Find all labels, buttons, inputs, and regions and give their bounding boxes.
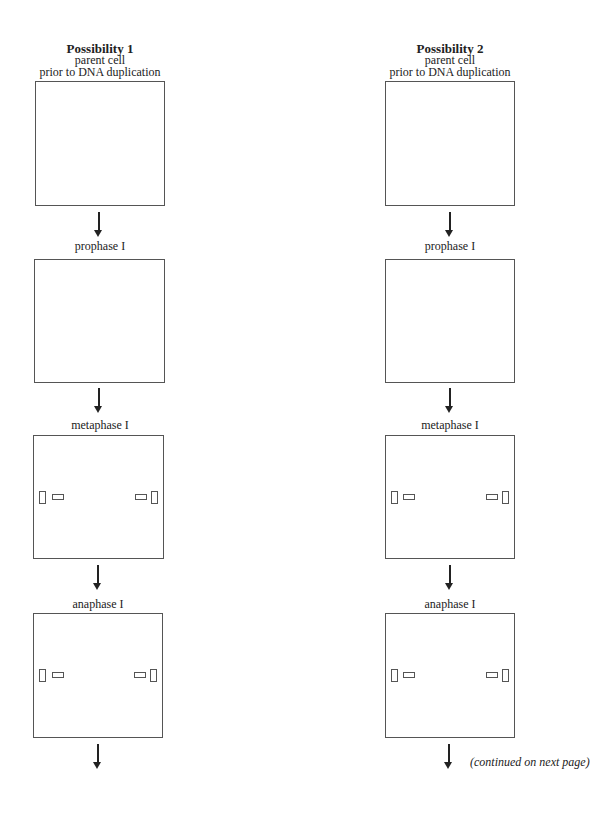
chromosome-horizontal — [486, 672, 498, 678]
chromosome-vertical — [391, 491, 398, 504]
down-arrow-icon — [444, 388, 456, 413]
possibility-2-prophase-label: prophase I — [370, 239, 530, 254]
down-arrow-icon — [443, 744, 455, 769]
chromosome-horizontal — [135, 494, 147, 500]
chromosome-vertical — [391, 669, 398, 682]
chromosome-horizontal — [134, 672, 146, 678]
chromosome-horizontal — [403, 672, 415, 678]
down-arrow-icon — [444, 212, 456, 237]
down-arrow-icon — [93, 388, 105, 413]
chromosome-horizontal — [52, 672, 64, 678]
chromosome-horizontal — [52, 494, 64, 500]
down-arrow-icon — [93, 212, 105, 237]
chromosome-vertical — [502, 669, 509, 682]
possibility-1-metaphase-box[interactable] — [33, 435, 164, 559]
continued-note: (continued on next page) — [470, 755, 590, 770]
chromosome-vertical — [39, 669, 46, 682]
down-arrow-icon — [92, 565, 104, 590]
possibility-2-metaphase-box[interactable] — [385, 435, 515, 559]
chromosome-horizontal — [403, 494, 415, 500]
possibility-2-metaphase-label: metaphase I — [370, 418, 530, 433]
possibility-1-anaphase-label: anaphase I — [18, 597, 178, 612]
chromosome-vertical — [39, 491, 46, 504]
down-arrow-icon — [444, 565, 456, 590]
possibility-1-prophase-box[interactable] — [34, 259, 165, 383]
possibility-1-anaphase-box[interactable] — [33, 613, 163, 738]
possibility-1-prophase-label: prophase I — [20, 239, 180, 254]
possibility-2-parent-cell-box[interactable] — [385, 81, 515, 206]
chromosome-vertical — [151, 491, 158, 504]
possibility-1-subtitle-line2: prior to DNA duplication — [0, 66, 200, 78]
possibility-2-anaphase-label: anaphase I — [370, 597, 530, 612]
possibility-2-prophase-box[interactable] — [385, 259, 515, 383]
chromosome-vertical — [502, 491, 509, 504]
possibility-2-subtitle-line2: prior to DNA duplication — [350, 66, 550, 78]
possibility-1-metaphase-label: metaphase I — [20, 418, 180, 433]
possibility-2-anaphase-box[interactable] — [385, 613, 515, 738]
down-arrow-icon — [92, 744, 104, 769]
chromosome-vertical — [150, 669, 157, 682]
possibility-1-parent-cell-box[interactable] — [35, 81, 165, 206]
chromosome-horizontal — [486, 494, 498, 500]
